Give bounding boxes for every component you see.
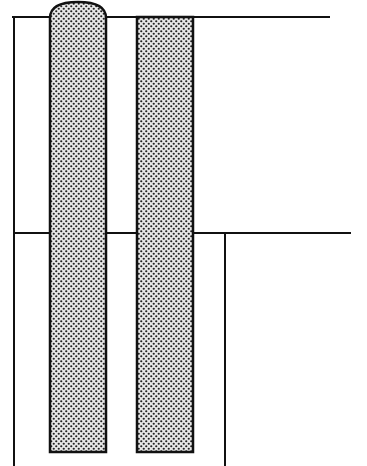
right-pile: [137, 17, 193, 452]
left-pile: [50, 2, 106, 452]
pile-diagram: [0, 0, 367, 466]
